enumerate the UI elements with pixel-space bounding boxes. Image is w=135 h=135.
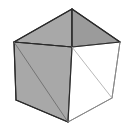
open-cube-figure (0, 0, 135, 135)
